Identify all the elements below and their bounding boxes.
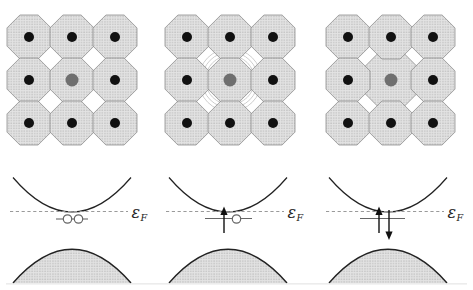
host-atom-dot: [110, 75, 120, 85]
host-atom-dot: [182, 75, 192, 85]
host-atom-dot: [343, 75, 353, 85]
host-atom-dot: [110, 32, 120, 42]
host-atom-dot: [386, 118, 396, 128]
figure-root: εFεFεF: [0, 0, 473, 290]
host-atom-dot: [67, 118, 77, 128]
fermi-level-label: ε: [448, 203, 457, 222]
host-atom-dot: [268, 118, 278, 128]
host-atom-dot: [343, 32, 353, 42]
host-atom-dot: [343, 118, 353, 128]
conduction-band-curve: [169, 178, 287, 213]
empty-state-circle: [63, 215, 71, 223]
figure-canvas: εFεFεF: [0, 0, 473, 290]
host-atom-dot: [67, 32, 77, 42]
panel-empty-level: εF: [7, 15, 148, 283]
host-atom-dot: [225, 118, 235, 128]
spin-up-arrowhead: [220, 207, 227, 216]
host-atom-dot: [225, 32, 235, 42]
host-atom-dot: [182, 32, 192, 42]
empty-state-circle: [74, 215, 82, 223]
impurity-atom-dot: [385, 74, 398, 87]
host-atom-dot: [182, 118, 192, 128]
host-atom-dot: [428, 32, 438, 42]
empty-state-circle: [232, 215, 240, 223]
host-atom-dot: [110, 118, 120, 128]
host-atom-dot: [24, 75, 34, 85]
figure-art: εFεFεF: [6, 15, 467, 284]
fermi-level-label: ε: [132, 203, 141, 222]
impurity-atom-dot: [224, 74, 237, 87]
host-atom-dot: [24, 32, 34, 42]
conduction-band-curve: [329, 178, 447, 213]
panel-one-electron: εF: [165, 15, 304, 283]
fermi-level-label-subscript: F: [140, 212, 148, 223]
fermi-level-label: ε: [288, 203, 297, 222]
panel-two-electrons: εF: [326, 15, 464, 283]
spin-down-arrowhead: [385, 232, 392, 241]
host-atom-dot: [268, 75, 278, 85]
impurity-atom-dot: [66, 74, 79, 87]
fermi-level-label-subscript: F: [296, 212, 304, 223]
host-atom-dot: [428, 118, 438, 128]
fermi-level-label-subscript: F: [456, 212, 464, 223]
host-atom-dot: [428, 75, 438, 85]
host-atom-dot: [24, 118, 34, 128]
conduction-band-curve: [13, 178, 131, 213]
host-atom-dot: [268, 32, 278, 42]
host-atom-dot: [386, 32, 396, 42]
